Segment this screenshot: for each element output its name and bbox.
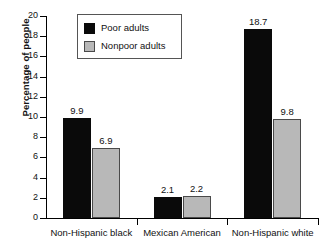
bar-value-label: 18.7 (238, 17, 278, 27)
y-axis-tick (40, 56, 46, 57)
y-axis-tick-label: 4 (0, 173, 38, 182)
legend-label-nonpoor-adults: Nonpoor adults (101, 41, 165, 51)
y-axis-tick-label: 20 (0, 11, 38, 20)
bar-value-label: 2.2 (177, 184, 217, 194)
y-axis-tick (40, 36, 46, 37)
y-axis-tick (40, 157, 46, 158)
y-axis-tick-label: 14 (0, 72, 38, 81)
legend-item-nonpoor-adults: Nonpoor adults (84, 38, 175, 54)
legend-label-poor-adults: Poor adults (101, 23, 149, 33)
x-axis-separator-tick (318, 218, 319, 225)
x-axis-category-label: Mexican American (137, 227, 228, 238)
y-axis-tick-label: 10 (0, 112, 38, 121)
x-axis-category-label: Non-Hispanic white (227, 227, 318, 238)
y-axis-tick-label: 12 (0, 92, 38, 101)
x-axis-category-label: Non-Hispanic black (46, 227, 137, 238)
bar (273, 119, 301, 218)
bar (92, 148, 120, 218)
bar (183, 196, 211, 218)
y-axis-tick-label: 6 (0, 152, 38, 161)
y-axis-tick (40, 117, 46, 118)
y-axis-line (46, 16, 47, 219)
x-axis-separator-tick (137, 218, 138, 225)
y-axis-tick (40, 178, 46, 179)
y-axis-tick (40, 77, 46, 78)
y-axis-tick-label: 16 (0, 51, 38, 60)
bar (244, 29, 272, 218)
black-square-swatch-icon (84, 23, 95, 34)
chart-legend: Poor adults Nonpoor adults (77, 14, 182, 59)
y-axis-tick (40, 16, 46, 17)
y-axis-tick (40, 218, 46, 219)
bar-chart: Percentage of people 02468101214161820 9… (0, 0, 330, 249)
y-axis-tick (40, 97, 46, 98)
bar-value-label: 9.8 (267, 107, 307, 117)
bar (63, 118, 91, 218)
y-axis-tick-label: 2 (0, 193, 38, 202)
gray-square-swatch-icon (84, 41, 95, 52)
y-axis-tick (40, 137, 46, 138)
legend-item-poor-adults: Poor adults (84, 20, 175, 36)
y-axis-tick-label: 8 (0, 132, 38, 141)
x-axis-separator-tick (227, 218, 228, 225)
y-axis-tick-label: 18 (0, 31, 38, 40)
bar (154, 197, 182, 218)
x-axis-line (46, 218, 318, 219)
bar-value-label: 6.9 (86, 136, 126, 146)
bar-value-label: 9.9 (57, 106, 97, 116)
y-axis-tick-label: 0 (0, 213, 38, 222)
y-axis-tick (40, 198, 46, 199)
